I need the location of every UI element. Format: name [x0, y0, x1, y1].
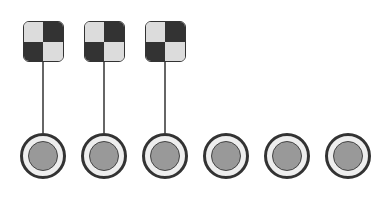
flag-quadrant	[165, 42, 185, 62]
hole-icon	[333, 141, 363, 171]
checkered-flag-icon[interactable]	[23, 21, 64, 62]
flag-quadrant	[146, 42, 166, 62]
hole-6[interactable]	[325, 133, 371, 179]
flag-quadrant	[165, 22, 185, 42]
hole-2[interactable]	[81, 133, 127, 179]
flag-quadrant	[104, 22, 124, 42]
hole-3[interactable]	[142, 133, 188, 179]
checkered-flag-icon[interactable]	[145, 21, 186, 62]
flag-pole	[164, 62, 166, 133]
hole-icon	[28, 141, 58, 171]
hole-1[interactable]	[20, 133, 66, 179]
hole-4[interactable]	[203, 133, 249, 179]
hole-icon	[150, 141, 180, 171]
hole-icon	[89, 141, 119, 171]
flag-quadrant	[43, 22, 63, 42]
flag-quadrant	[24, 22, 44, 42]
checkered-flag-icon[interactable]	[84, 21, 125, 62]
flag-pole	[42, 62, 44, 133]
hole-5[interactable]	[264, 133, 310, 179]
flag-quadrant	[104, 42, 124, 62]
flag-quadrant	[43, 42, 63, 62]
flag-quadrant	[85, 22, 105, 42]
hole-icon	[211, 141, 241, 171]
flag-quadrant	[146, 22, 166, 42]
flag-quadrant	[24, 42, 44, 62]
hole-icon	[272, 141, 302, 171]
flag-pole	[103, 62, 105, 133]
flag-quadrant	[85, 42, 105, 62]
